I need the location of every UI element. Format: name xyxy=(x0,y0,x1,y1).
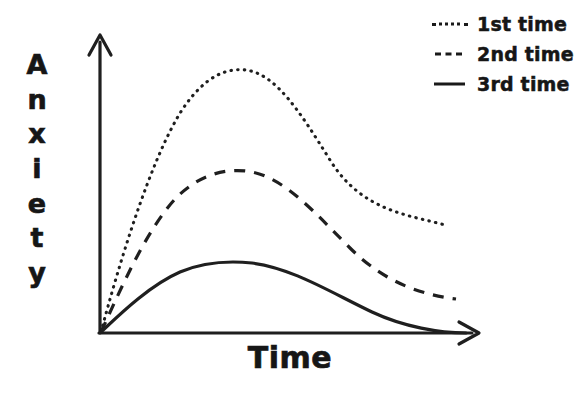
y-axis-label-letter: t xyxy=(31,225,44,251)
legend-swatch-solid-icon xyxy=(432,77,468,91)
legend-swatch-dotted-icon xyxy=(432,17,468,31)
y-axis xyxy=(89,35,111,333)
legend-item-2nd-time: 2nd time xyxy=(432,43,574,65)
series-line-2nd-time xyxy=(101,171,456,332)
y-axis-label-letter: A xyxy=(27,52,48,78)
series-line-3rd-time xyxy=(101,262,466,333)
legend-item-1st-time: 1st time xyxy=(432,13,574,35)
legend-swatch-dashed-icon xyxy=(432,47,468,61)
y-axis-label-letter: i xyxy=(32,156,41,182)
legend-label: 1st time xyxy=(477,13,567,35)
legend-item-3rd-time: 3rd time xyxy=(432,73,574,95)
x-axis-label: Time xyxy=(100,340,480,375)
chart-legend: 1st time 2nd time 3rd time xyxy=(432,13,574,95)
y-axis-label-letter: n xyxy=(27,87,46,113)
series-line-1st-time xyxy=(101,70,445,332)
y-axis-label-letter: y xyxy=(28,260,46,286)
y-axis-label-letter: e xyxy=(28,191,46,217)
legend-label: 2nd time xyxy=(477,43,574,65)
legend-label: 3rd time xyxy=(477,73,570,95)
y-axis-label-letter: x xyxy=(28,121,45,147)
y-axis-label: A n x i e t y xyxy=(14,52,60,285)
